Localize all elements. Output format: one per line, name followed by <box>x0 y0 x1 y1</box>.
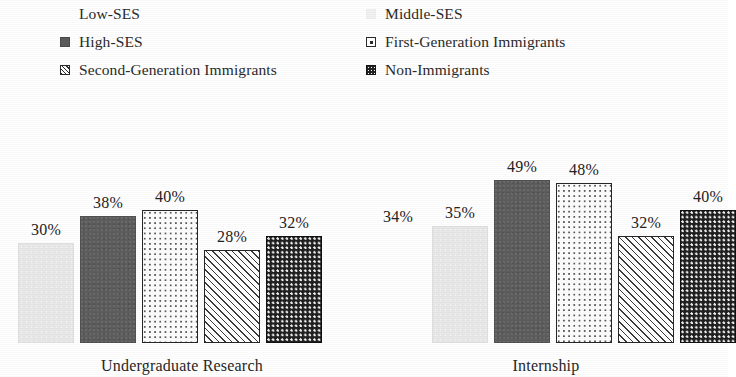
bar-non-immigrants-internship <box>680 210 736 343</box>
chart-legend: Low-SES High-SES Second-Generation Immig… <box>0 0 728 86</box>
legend-label-second-generation-immigrants: Second-Generation Immigrants <box>79 62 277 78</box>
legend-swatch-non-immigrants <box>366 65 376 75</box>
group-label-internship: Internship <box>364 357 728 375</box>
legend-item-second-generation-immigrants: Second-Generation Immigrants <box>60 56 277 84</box>
legend-item-low-ses: Low-SES <box>60 0 277 28</box>
legend-item-non-immigrants: Non-Immigrants <box>366 56 565 84</box>
bar-value-label: 32% <box>266 215 322 231</box>
bar-low-ses-internship <box>370 230 426 343</box>
bar-second-generation-immigrants-undergraduate-research <box>204 250 260 343</box>
bar-value-label: 34% <box>370 209 426 225</box>
bar-high-ses-undergraduate-research <box>80 216 136 343</box>
bar-value-label: 32% <box>618 215 674 231</box>
plot-area: Undergraduate Research 28%30%38%40%28%32… <box>0 86 728 377</box>
legend-swatch-second-generation-immigrants <box>60 65 70 75</box>
legend-column-left: Low-SES High-SES Second-Generation Immig… <box>60 0 277 84</box>
legend-label-middle-ses: Middle-SES <box>385 6 463 22</box>
bar-value-label: 38% <box>80 195 136 211</box>
bar-value-label: 28% <box>0 229 12 245</box>
bar-first-generation-immigrants-undergraduate-research <box>142 210 198 343</box>
legend-swatch-low-ses <box>60 9 70 19</box>
legend-label-first-generation-immigrants: First-Generation Immigrants <box>385 34 565 50</box>
bar-value-label: 49% <box>494 159 550 175</box>
legend-label-non-immigrants: Non-Immigrants <box>385 62 490 78</box>
bar-value-label: 40% <box>142 189 198 205</box>
legend-item-high-ses: High-SES <box>60 28 277 56</box>
bar-group-internship: Internship 34%35%49%48%32%40% <box>364 86 728 377</box>
legend-swatch-high-ses <box>60 37 70 47</box>
bar-middle-ses-internship <box>432 226 488 343</box>
bar-middle-ses-undergraduate-research <box>18 243 74 343</box>
legend-item-middle-ses: Middle-SES <box>366 0 565 28</box>
bar-value-label: 30% <box>18 222 74 238</box>
bar-value-label: 28% <box>204 229 260 245</box>
bar-low-ses-undergraduate-research <box>0 250 12 343</box>
legend-label-low-ses: Low-SES <box>79 6 140 22</box>
legend-item-first-generation-immigrants: First-Generation Immigrants <box>366 28 565 56</box>
bar-high-ses-internship <box>494 180 550 343</box>
bar-group-undergraduate-research: Undergraduate Research 28%30%38%40%28%32… <box>0 86 364 377</box>
bar-value-label: 48% <box>556 162 612 178</box>
legend-column-right: Middle-SES First-Generation Immigrants N… <box>366 0 565 84</box>
bar-value-label: 35% <box>432 205 488 221</box>
bar-second-generation-immigrants-internship <box>618 236 674 343</box>
bar-first-generation-immigrants-internship <box>556 183 612 343</box>
legend-swatch-middle-ses <box>366 9 376 19</box>
legend-label-high-ses: High-SES <box>79 34 143 50</box>
bar-non-immigrants-undergraduate-research <box>266 236 322 343</box>
group-label-undergraduate-research: Undergraduate Research <box>0 357 364 375</box>
bar-value-label: 40% <box>680 189 736 205</box>
legend-swatch-first-generation-immigrants <box>366 37 376 47</box>
